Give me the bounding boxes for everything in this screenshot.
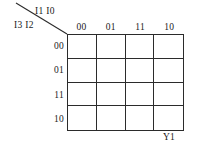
row-variables-label: I3 I2 (14, 21, 34, 31)
row-header-3: 10 (40, 107, 64, 131)
kmap-cell[interactable] (154, 106, 183, 130)
column-header-3: 10 (155, 21, 184, 33)
kmap-cell[interactable] (126, 59, 155, 83)
kmap-cell[interactable] (97, 106, 126, 130)
kmap-cell[interactable] (68, 35, 97, 59)
column-header-row: 00 01 11 10 (67, 21, 184, 33)
karnaugh-map-grid (67, 34, 184, 131)
row-header-1: 01 (40, 58, 64, 82)
kmap-cell[interactable] (154, 83, 183, 107)
kmap-cell[interactable] (126, 35, 155, 59)
output-function-label: Y1 (152, 133, 186, 143)
kmap-cell[interactable] (126, 83, 155, 107)
kmap-cell[interactable] (68, 83, 97, 107)
column-header-1: 01 (96, 21, 125, 33)
row-header-2: 11 (40, 83, 64, 107)
kmap-cell[interactable] (97, 59, 126, 83)
kmap-cell[interactable] (126, 106, 155, 130)
kmap-cell[interactable] (97, 83, 126, 107)
kmap-cell[interactable] (154, 59, 183, 83)
kmap-cell[interactable] (68, 106, 97, 130)
karnaugh-map-figure: I1 I0 I3 I2 00 01 11 10 00 01 11 10 Y1 (0, 0, 199, 150)
column-header-0: 00 (67, 21, 96, 33)
row-header-0: 00 (40, 34, 64, 58)
column-header-2: 11 (126, 21, 155, 33)
kmap-cell[interactable] (68, 59, 97, 83)
column-variables-label: I1 I0 (35, 7, 55, 17)
kmap-cell[interactable] (97, 35, 126, 59)
row-header-column: 00 01 11 10 (40, 34, 64, 131)
kmap-cell[interactable] (154, 35, 183, 59)
